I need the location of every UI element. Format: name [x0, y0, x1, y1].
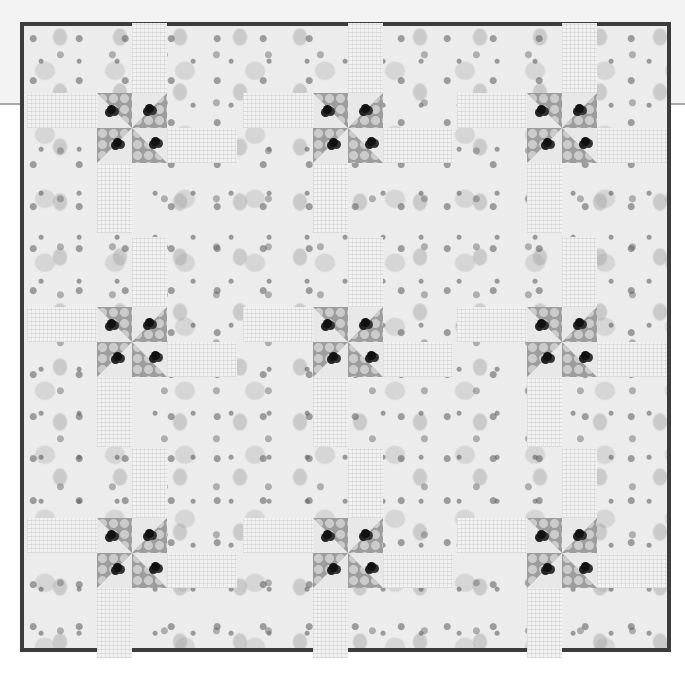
light-strip	[383, 128, 453, 163]
light-strip	[27, 518, 97, 553]
light-strip	[167, 342, 237, 377]
quilt	[20, 22, 671, 652]
pinwheel-block	[527, 93, 597, 163]
pinwheel-block	[97, 307, 167, 377]
light-strip	[457, 518, 527, 553]
light-strip	[383, 342, 453, 377]
light-strip	[132, 23, 167, 93]
light-strip	[383, 553, 453, 588]
light-strip	[313, 163, 348, 233]
pinwheel-block	[97, 93, 167, 163]
light-strip	[527, 588, 562, 658]
light-strip	[527, 377, 562, 447]
light-strip	[97, 163, 132, 233]
light-strip	[348, 237, 383, 307]
light-strip	[597, 553, 667, 588]
light-strip	[562, 23, 597, 93]
light-strip	[562, 448, 597, 518]
light-strip	[597, 128, 667, 163]
light-strip	[457, 93, 527, 128]
light-strip	[243, 307, 313, 342]
pinwheel-block	[313, 307, 383, 377]
light-strip	[348, 23, 383, 93]
pinwheel-block	[97, 518, 167, 588]
light-strip	[243, 93, 313, 128]
light-strip	[97, 377, 132, 447]
pinwheel-block	[527, 518, 597, 588]
light-strip	[132, 237, 167, 307]
light-strip	[97, 588, 132, 658]
light-strip	[243, 518, 313, 553]
light-strip	[562, 237, 597, 307]
light-strip	[597, 342, 667, 377]
light-strip	[527, 163, 562, 233]
light-strip	[27, 93, 97, 128]
light-strip	[167, 128, 237, 163]
light-strip	[132, 448, 167, 518]
light-strip	[313, 588, 348, 658]
light-strip	[167, 553, 237, 588]
pinwheel-block	[527, 307, 597, 377]
light-strip	[27, 307, 97, 342]
light-strip	[313, 377, 348, 447]
pinwheel-block	[313, 518, 383, 588]
pinwheel-block	[313, 93, 383, 163]
light-strip	[348, 448, 383, 518]
light-strip	[457, 307, 527, 342]
